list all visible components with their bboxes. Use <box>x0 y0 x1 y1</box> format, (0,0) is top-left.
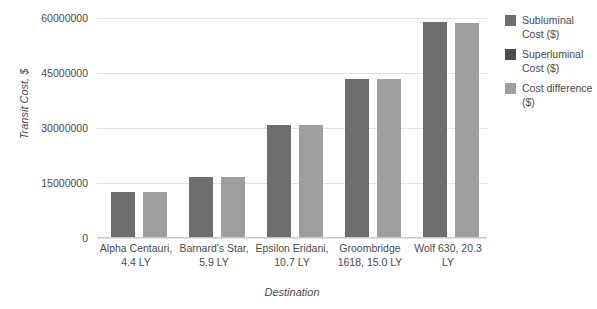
legend-label: Cost difference ($) <box>522 82 597 109</box>
legend: Subluminal Cost ($)Superluminal Cost ($)… <box>505 14 597 116</box>
x-axis-title: Destination <box>97 286 487 298</box>
y-tick-label: 0 <box>0 232 88 244</box>
legend-item[interactable]: Superluminal Cost ($) <box>505 48 597 75</box>
bar[interactable] <box>299 125 323 237</box>
y-tick-label: 15000000 <box>0 177 88 189</box>
plot-area <box>97 18 487 238</box>
bar[interactable] <box>111 192 135 237</box>
x-tick-label: Epsilon Eridani, 10.7 LY <box>253 242 331 269</box>
legend-item[interactable]: Subluminal Cost ($) <box>505 14 597 41</box>
x-tick-label: Barnard's Star, 5.9 LY <box>175 242 253 269</box>
bar-group <box>253 18 331 237</box>
legend-swatch-icon <box>505 15 516 26</box>
bar[interactable] <box>221 177 245 237</box>
bar[interactable] <box>455 23 479 237</box>
legend-label: Subluminal Cost ($) <box>522 14 597 41</box>
bar-group <box>175 18 253 237</box>
bar[interactable] <box>267 125 291 237</box>
legend-item[interactable]: Cost difference ($) <box>505 82 597 109</box>
bars-layer <box>97 18 487 237</box>
bar-group <box>97 18 175 237</box>
bar-group <box>331 18 409 237</box>
x-tick-label: Wolf 630, 20.3 LY <box>409 242 487 269</box>
bar[interactable] <box>423 22 447 237</box>
bar[interactable] <box>189 177 213 238</box>
y-tick-label: 45000000 <box>0 67 88 79</box>
gridline <box>97 238 487 239</box>
x-axis-line <box>97 237 487 238</box>
bar-chart: Transit Cost, $ 015000000300000004500000… <box>0 0 597 309</box>
x-tick-label: Groombridge 1618, 15.0 LY <box>331 242 409 269</box>
y-tick-label: 30000000 <box>0 122 88 134</box>
bar[interactable] <box>345 79 369 237</box>
bar-group <box>409 18 487 237</box>
bar[interactable] <box>377 79 401 237</box>
x-tick-label: Alpha Centauri, 4.4 LY <box>97 242 175 269</box>
legend-swatch-icon <box>505 49 516 60</box>
legend-label: Superluminal Cost ($) <box>522 48 597 75</box>
y-tick-label: 60000000 <box>0 12 88 24</box>
legend-swatch-icon <box>505 83 516 94</box>
bar[interactable] <box>143 192 167 237</box>
